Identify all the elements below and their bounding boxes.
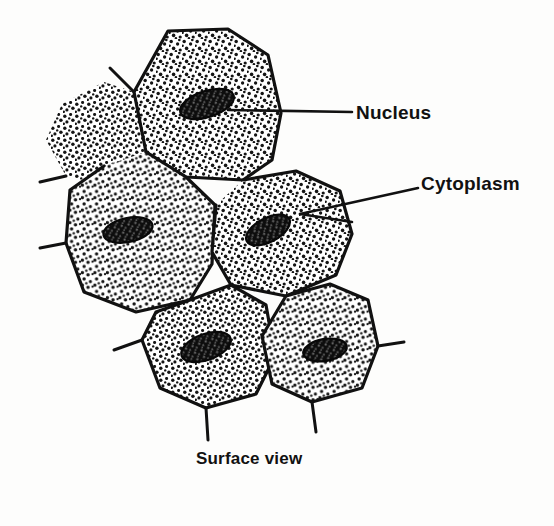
wall-stub-left-upper <box>40 176 66 182</box>
label-cytoplasm: Cytoplasm <box>421 173 520 195</box>
wall-stub-bottom-right <box>312 402 316 432</box>
figure-page: Nucleus Cytoplasm Surface view <box>0 0 554 526</box>
caption-surface-view: Surface view <box>196 449 302 469</box>
cell-surface-view-diagram <box>0 0 554 526</box>
label-nucleus: Nucleus <box>356 102 431 124</box>
wall-stub-left-lower <box>114 340 142 350</box>
wall-stub-left-middle <box>40 243 66 248</box>
wall-stub-bottom-left <box>206 408 208 440</box>
wall-stub-right-lower <box>378 342 404 346</box>
